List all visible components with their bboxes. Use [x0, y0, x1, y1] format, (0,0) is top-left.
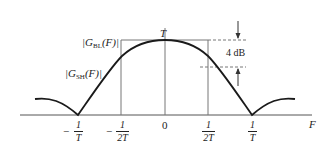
gbl-sub: BL: [93, 42, 102, 50]
tick-neg-1-over-2t: 1 2T: [116, 120, 129, 143]
tick-num: 1: [76, 120, 81, 130]
gbl-prefix: |G: [82, 36, 93, 48]
tick-den: 2T: [203, 133, 214, 143]
tick-num: 1: [250, 120, 255, 130]
tick-den: T: [250, 133, 256, 143]
db-label: 4 dB: [226, 48, 245, 58]
gbl-label: |GBL(F)|: [82, 37, 119, 50]
peak-label: T: [160, 28, 166, 39]
tick-den: T: [76, 133, 82, 143]
tick-1-over-2t: 1 2T: [202, 120, 215, 143]
tick-1-over-t: 1 T: [248, 120, 257, 143]
gsh-suffix: (F)|: [85, 67, 102, 79]
gsh-prefix: |G: [65, 67, 76, 79]
tick-den: 2T: [117, 133, 128, 143]
tick-zero: 0: [162, 120, 168, 131]
gbl-suffix: (F)|: [102, 36, 119, 48]
axis-label-f: F: [309, 119, 316, 130]
tick-neg-1-over-2t-sign: −: [106, 125, 112, 137]
tick-num: 1: [120, 120, 125, 130]
tick-neg-1-over-t: 1 T: [74, 120, 83, 143]
gsh-label: |GSH(F)|: [65, 68, 102, 81]
up-arrow-icon: [236, 68, 241, 86]
gsh-sub: SH: [76, 73, 85, 81]
tick-num: 1: [206, 120, 211, 130]
tick-neg-1-over-t-sign: −: [63, 125, 69, 137]
down-arrow-icon: [236, 21, 241, 39]
